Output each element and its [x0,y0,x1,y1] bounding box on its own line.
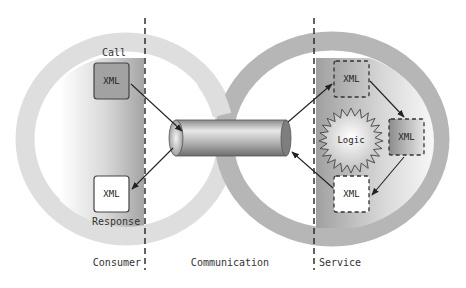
service-out-xml-box: XML [334,176,369,212]
ring-overlap [205,80,222,115]
service-in-xml-box: XML [334,61,369,97]
service-in-xml-label: XML [343,74,359,84]
call-xml-label: XML [103,76,119,86]
response-xml-label: XML [103,189,119,199]
call-xml-box: XML [94,63,129,99]
soa-diagram: XML Call XML Response XML XML XML Logic … [0,0,466,288]
response-label: Response [92,216,140,227]
service-process-xml-label: XML [398,132,414,142]
logic-label: Logic [337,135,364,145]
call-label: Call [102,47,126,58]
zone-service-label: Service [319,257,361,268]
service-process-xml-box: XML [389,119,424,155]
zone-consumer-label: Consumer [93,257,141,268]
service-out-xml-label: XML [343,189,359,199]
zone-communication-label: Communication [191,257,269,268]
communication-pipe [169,120,291,156]
response-xml-box: XML [94,176,129,212]
